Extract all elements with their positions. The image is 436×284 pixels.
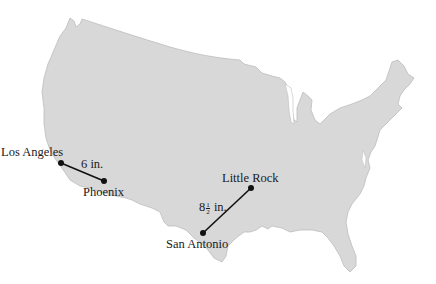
city-dot-los-angeles <box>58 160 64 166</box>
label-phoenix: Phoenix <box>83 186 124 199</box>
distance-label-sanantonio-littlerock: 812 in. <box>199 201 227 215</box>
label-san-antonio: San Antonio <box>166 238 228 251</box>
city-dot-little-rock <box>248 185 254 191</box>
us-land-outline <box>42 18 414 272</box>
fraction-denominator: 2 <box>206 209 210 215</box>
label-los-angeles: Los Angeles <box>1 146 63 159</box>
distance-label-la-phoenix: 6 in. <box>81 158 103 171</box>
distance-whole: 8 <box>199 200 205 214</box>
city-dot-san-antonio <box>200 230 206 236</box>
distance-unit: in. <box>214 200 227 214</box>
city-dot-phoenix <box>101 178 107 184</box>
label-little-rock: Little Rock <box>222 172 279 185</box>
distance-fraction: 12 <box>206 202 210 215</box>
